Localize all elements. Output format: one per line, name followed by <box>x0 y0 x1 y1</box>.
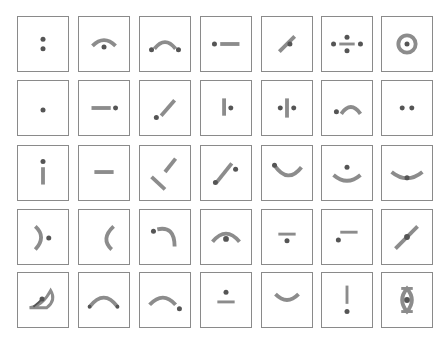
two-dots-vertical-icon <box>18 17 68 71</box>
grid-cell <box>381 16 433 72</box>
grid-cell <box>17 209 69 265</box>
horizontal-dash-icon <box>79 146 129 200</box>
vertical-bar-dot-icon <box>201 81 251 135</box>
grid-cell <box>17 16 69 72</box>
dot-smile-arc-icon <box>262 146 312 200</box>
grid-cell <box>321 80 373 136</box>
grid-cell <box>200 16 252 72</box>
grid-cell <box>78 80 130 136</box>
dot-quarter-arc-icon <box>140 210 190 264</box>
grid-cell <box>261 16 313 72</box>
grid-cell <box>381 145 433 201</box>
arc-over-center-dot-icon <box>201 210 251 264</box>
grid-cell <box>17 272 69 328</box>
dash-over-dot-icon <box>262 210 312 264</box>
left-paren-icon <box>79 210 129 264</box>
single-dot-icon <box>18 81 68 135</box>
grid-cell <box>321 16 373 72</box>
diagonal-bar-dot-icon <box>201 146 251 200</box>
grid-cell <box>78 209 130 265</box>
dot-arc-icon <box>322 81 372 135</box>
two-crossed-bars-icon <box>140 146 190 200</box>
arch-icon <box>79 273 129 327</box>
smile-icon <box>262 273 312 327</box>
grid-cell <box>321 272 373 328</box>
exclamation-icon <box>322 273 372 327</box>
ring-with-dot-icon <box>382 17 432 71</box>
grid-cell <box>78 16 130 72</box>
grid-cell <box>139 272 191 328</box>
grid-cell <box>321 145 373 201</box>
dot-arc-dot-icon <box>140 17 190 71</box>
grid-cell <box>261 80 313 136</box>
grid-cell <box>78 272 130 328</box>
grid-cell <box>200 272 252 328</box>
grid-cell <box>200 209 252 265</box>
grid-cell <box>139 209 191 265</box>
half-eye-icon <box>18 273 68 327</box>
grid-cell <box>139 145 191 201</box>
grid-cell <box>261 145 313 201</box>
grid-cell <box>139 16 191 72</box>
arc-over-dot-icon <box>79 17 129 71</box>
grid-cell <box>381 209 433 265</box>
dash-dot-below-left-icon <box>322 210 372 264</box>
dot-over-smile-icon <box>322 146 372 200</box>
right-paren-dot-icon <box>18 210 68 264</box>
dot-over-vertical-bar-icon <box>18 146 68 200</box>
ornate-eye-icon <box>382 273 432 327</box>
dot-dash-icon <box>201 17 251 71</box>
diagonal-bar-with-dot-icon <box>262 17 312 71</box>
dot-vertical-bar-dot-icon <box>262 81 312 135</box>
division-with-side-dots-icon <box>322 17 372 71</box>
grid-cell <box>381 80 433 136</box>
dash-dot-icon <box>79 81 129 135</box>
grid-cell <box>78 145 130 201</box>
smile-with-center-dot-icon <box>382 146 432 200</box>
grid-cell <box>17 80 69 136</box>
grid-cell <box>139 80 191 136</box>
grid-cell <box>261 272 313 328</box>
arch-dot-icon <box>140 273 190 327</box>
two-dots-horizontal-icon <box>382 81 432 135</box>
grid-cell <box>381 272 433 328</box>
grid-cell <box>261 209 313 265</box>
dot-over-dash-icon <box>201 273 251 327</box>
dot-diagonal-bar-icon <box>140 81 190 135</box>
grid-cell <box>200 80 252 136</box>
diagonal-bar-center-dot-icon <box>382 210 432 264</box>
grid-cell <box>17 145 69 201</box>
grid-cell <box>321 209 373 265</box>
grid-cell <box>200 145 252 201</box>
